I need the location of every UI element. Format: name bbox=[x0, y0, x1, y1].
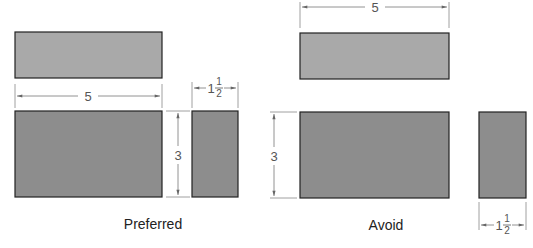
preferred-height-dimension: 3 bbox=[166, 111, 190, 197]
avoid-width-dimension: 5 bbox=[300, 0, 449, 28]
avoid-side-view bbox=[479, 112, 526, 198]
preferred-label: Preferred bbox=[124, 216, 182, 232]
preferred-side-view bbox=[192, 111, 238, 197]
preferred-depth-num: 1 bbox=[216, 76, 222, 87]
preferred-top-view bbox=[15, 32, 162, 78]
avoid-height-dimension: 3 bbox=[270, 112, 297, 198]
avoid-depth-den: 2 bbox=[504, 225, 510, 236]
avoid-top-view bbox=[300, 33, 449, 79]
preferred-height-text: 3 bbox=[174, 148, 181, 163]
avoid-group: 5 3 1 1 2 bbox=[270, 0, 526, 236]
preferred-width-dimension: 5 bbox=[15, 84, 162, 108]
avoid-depth-dimension: 1 1 2 bbox=[479, 202, 526, 236]
preferred-depth-whole: 1 bbox=[207, 81, 214, 96]
avoid-label: Avoid bbox=[369, 217, 404, 233]
preferred-depth-den: 2 bbox=[216, 88, 222, 99]
avoid-depth-whole: 1 bbox=[495, 218, 502, 233]
preferred-group: 5 3 1 1 2 bbox=[15, 32, 238, 197]
avoid-height-text: 3 bbox=[270, 149, 277, 164]
avoid-front-view bbox=[300, 112, 449, 198]
preferred-width-text: 5 bbox=[84, 89, 91, 104]
avoid-depth-num: 1 bbox=[504, 213, 510, 224]
preferred-depth-dimension: 1 1 2 bbox=[192, 76, 238, 108]
drawing-canvas: 5 3 1 1 2 bbox=[0, 0, 533, 248]
avoid-width-text: 5 bbox=[371, 0, 378, 15]
preferred-front-view bbox=[15, 111, 162, 197]
